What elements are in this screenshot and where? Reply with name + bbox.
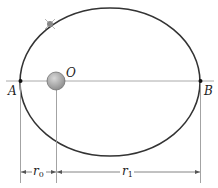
- label-b: B: [204, 85, 213, 97]
- label-o: O: [66, 67, 76, 79]
- arrowhead-icon: [57, 170, 62, 174]
- arrowhead-icon: [195, 170, 200, 174]
- label-r1-sub: 1: [128, 170, 133, 179]
- orbit-diagram: [0, 0, 218, 188]
- label-r0: r0: [33, 165, 44, 179]
- label-r1: r1: [122, 165, 133, 179]
- planet-icon: [47, 72, 65, 90]
- label-r0-sub: 0: [39, 170, 44, 179]
- point-b-dot: [199, 79, 203, 83]
- arrowhead-icon: [51, 170, 56, 174]
- point-a-dot: [19, 79, 23, 83]
- label-a: A: [8, 85, 17, 97]
- arrowhead-icon: [21, 170, 26, 174]
